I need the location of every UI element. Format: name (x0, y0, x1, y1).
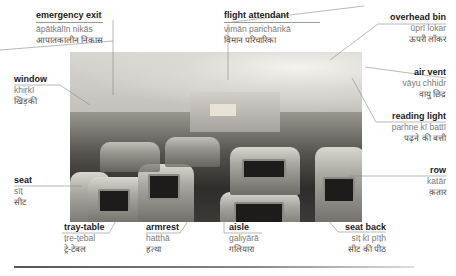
label-translit: āpātkālīn nikās (36, 24, 103, 35)
label-en: tray-table (64, 222, 105, 233)
label-hindi: ट्रे-टेबल (64, 244, 105, 255)
label-en: air vent (366, 67, 446, 78)
seat-shape (315, 147, 362, 222)
label-emergency-exit: emergency exit āpātkālīn nikās आपातकालीन… (36, 10, 103, 46)
label-translit: khiṛkī (14, 85, 47, 96)
label-window: window khiṛkī खिड़की (14, 74, 47, 107)
label-hindi: क़तार (386, 187, 446, 198)
label-hindi: आपातकालीन निकास (36, 35, 103, 46)
label-hindi: सीट (14, 197, 32, 208)
label-hindi: वायु छिद्र (366, 89, 446, 100)
label-en: seat (14, 175, 32, 186)
label-hindi: सीट की पीठ (316, 244, 386, 255)
label-air-vent: air vent vāyu chhidr वायु छिद्र (366, 67, 446, 100)
label-en: aisle (229, 222, 259, 233)
seat-shape (230, 147, 300, 195)
label-translit: parhne kī battī (366, 122, 446, 133)
label-translit: ūprī lokar (356, 23, 446, 34)
label-en: armrest (146, 222, 179, 233)
label-translit: galiyārā (229, 233, 259, 244)
label-flight-attendant: flight attendant vimān parichārikā विमान… (224, 10, 320, 46)
label-seat: seat sīṭ सीट (14, 175, 32, 208)
label-translit: vimān parichārikā (224, 24, 320, 35)
label-hindi: पढ़ने की बत्ती (366, 133, 446, 144)
label-en: row (386, 165, 446, 176)
label-hindi: खिड़की (14, 96, 47, 107)
label-seat-back: seat back sīṭ kī pīṭh सीट की पीठ (316, 222, 386, 255)
label-reading-light: reading light parhne kī battī पढ़ने की ब… (366, 111, 446, 144)
label-hindi: ऊपरी लॉकर (356, 34, 446, 45)
seat-shape (100, 142, 160, 172)
page-separator (14, 266, 414, 268)
label-translit: ṭre-ṭebal (64, 233, 105, 244)
label-tray-table: tray-table ṭre-ṭebal ट्रे-टेबल (64, 222, 105, 255)
label-aisle: aisle galiyārā गलियारा (229, 222, 259, 255)
label-row: row katār क़तार (386, 165, 446, 198)
label-en: emergency exit (36, 10, 103, 23)
label-translit: sīṭ kī pīṭh (316, 233, 386, 244)
label-en: overhead bin (356, 12, 446, 23)
label-armrest: armrest hatthā हत्था (146, 222, 179, 255)
bulkhead-screen (210, 104, 236, 116)
seat-shape (165, 137, 220, 167)
label-en: flight attendant (224, 10, 320, 23)
label-hindi: गलियारा (229, 244, 259, 255)
label-translit: vāyu chhidr (366, 78, 446, 89)
seat-shape (138, 164, 194, 222)
label-overhead-bin: overhead bin ūprī lokar ऊपरी लॉकर (356, 12, 446, 45)
seat-shape (220, 192, 300, 222)
label-en: reading light (366, 111, 446, 122)
label-translit: sīṭ (14, 186, 32, 197)
label-en: seat back (316, 222, 386, 233)
label-en: window (14, 74, 47, 85)
label-hindi: हत्था (146, 244, 179, 255)
label-translit: hatthā (146, 233, 179, 244)
label-hindi: विमान परिचारिका (224, 35, 320, 46)
cabin-photo (70, 52, 362, 222)
label-translit: katār (386, 176, 446, 187)
